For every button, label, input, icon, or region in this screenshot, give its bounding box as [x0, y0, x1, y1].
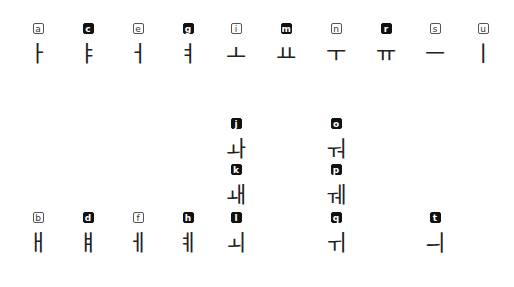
- vowel-glyph: ㅟ: [316, 231, 356, 255]
- vowel-glyph: ㅛ: [266, 42, 306, 66]
- vowel-glyph: ㅐ: [18, 231, 58, 255]
- vowel-cell-l: lㅚ: [216, 206, 256, 255]
- letter-label: e: [133, 23, 144, 34]
- vowel-glyph: ㅓ: [118, 42, 158, 66]
- vowel-cell-q: qㅟ: [316, 206, 356, 255]
- vowel-glyph: ㅙ: [216, 183, 256, 207]
- vowel-glyph: ㅡ: [415, 42, 455, 66]
- letter-label: c: [83, 23, 94, 34]
- letter-label: u: [478, 23, 489, 34]
- letter-label: n: [331, 23, 342, 34]
- vowel-glyph: ㅞ: [316, 183, 356, 207]
- letter-label: r: [381, 23, 392, 34]
- letter-label: m: [281, 23, 292, 34]
- vowel-glyph: ㅑ: [68, 42, 108, 66]
- letter-label: f: [133, 212, 144, 223]
- vowel-cell-j: jㅘ: [216, 112, 256, 161]
- letter-label: k: [231, 164, 242, 175]
- vowel-glyph: ㅢ: [415, 231, 455, 255]
- letter-label: a: [33, 23, 44, 34]
- vowel-cell-o: oㅝ: [316, 112, 356, 161]
- vowel-glyph: ㅗ: [216, 42, 256, 66]
- letter-label: l: [231, 212, 242, 223]
- vowel-cell-b: bㅐ: [18, 206, 58, 255]
- letter-label: q: [331, 212, 342, 223]
- letter-label: b: [33, 212, 44, 223]
- vowel-cell-n: nㅜ: [316, 17, 356, 66]
- vowel-cell-g: gㅕ: [168, 17, 208, 66]
- letter-label: t: [430, 212, 441, 223]
- vowel-cell-s: sㅡ: [415, 17, 455, 66]
- vowel-glyph: ㅜ: [316, 42, 356, 66]
- vowel-cell-d: dㅒ: [68, 206, 108, 255]
- vowel-cell-t: tㅢ: [415, 206, 455, 255]
- letter-label: g: [183, 23, 194, 34]
- vowel-cell-h: hㅖ: [168, 206, 208, 255]
- vowel-glyph: ㅣ: [463, 42, 503, 66]
- vowel-cell-c: cㅑ: [68, 17, 108, 66]
- vowel-cell-f: fㅔ: [118, 206, 158, 255]
- vowel-cell-u: uㅣ: [463, 17, 503, 66]
- vowel-cell-e: eㅓ: [118, 17, 158, 66]
- vowel-glyph: ㅕ: [168, 42, 208, 66]
- vowel-cell-p: pㅞ: [316, 158, 356, 207]
- vowel-glyph: ㅔ: [118, 231, 158, 255]
- vowel-glyph: ㅏ: [18, 42, 58, 66]
- vowel-cell-r: rㅠ: [366, 17, 406, 66]
- letter-label: d: [83, 212, 94, 223]
- vowel-cell-k: kㅙ: [216, 158, 256, 207]
- vowel-cell-m: mㅛ: [266, 17, 306, 66]
- vowel-glyph: ㅒ: [68, 231, 108, 255]
- letter-label: p: [331, 164, 342, 175]
- vowel-glyph: ㅠ: [366, 42, 406, 66]
- vowel-cell-i: iㅗ: [216, 17, 256, 66]
- letter-label: h: [183, 212, 194, 223]
- vowel-glyph: ㅖ: [168, 231, 208, 255]
- letter-label: i: [231, 23, 242, 34]
- letter-label: j: [231, 118, 242, 129]
- vowel-glyph: ㅚ: [216, 231, 256, 255]
- letter-label: o: [331, 118, 342, 129]
- vowel-cell-a: aㅏ: [18, 17, 58, 66]
- letter-label: s: [430, 23, 441, 34]
